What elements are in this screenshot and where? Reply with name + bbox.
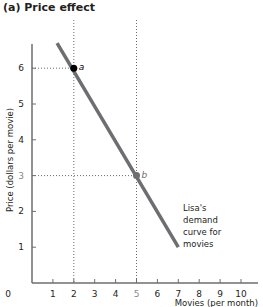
y-tick-label: 4: [18, 135, 24, 145]
y-tick-label: 3: [18, 171, 24, 181]
x-tick-label: 4: [113, 289, 119, 299]
point-a: [70, 65, 77, 72]
y-axis-label: Price (dollars per movie): [5, 108, 15, 212]
point-label-b: b: [142, 170, 148, 180]
point-b: [133, 172, 140, 179]
x-tick-label: 6: [155, 289, 161, 299]
curve-annotation: curve for: [183, 227, 222, 237]
demand-chart: 123456012345678910Movies (per month)Pric…: [0, 0, 263, 307]
x-tick-label: 5: [134, 289, 140, 299]
curve-annotation: demand: [183, 215, 218, 225]
x-tick-label: 3: [92, 289, 98, 299]
point-label-a: a: [79, 62, 85, 72]
demand-curve: [57, 43, 178, 247]
y-tick-label: 2: [18, 206, 24, 216]
y-tick-label: 6: [18, 63, 24, 73]
curve-annotation: Lisa's: [183, 203, 207, 213]
y-tick-label: 5: [18, 99, 24, 109]
x-axis-label: Movies (per month): [175, 298, 258, 307]
x-tick-label: 0: [5, 289, 11, 299]
x-tick-label: 2: [71, 289, 77, 299]
curve-annotation: movies: [183, 239, 214, 249]
x-tick-label: 1: [50, 289, 56, 299]
y-tick-label: 1: [18, 242, 24, 252]
